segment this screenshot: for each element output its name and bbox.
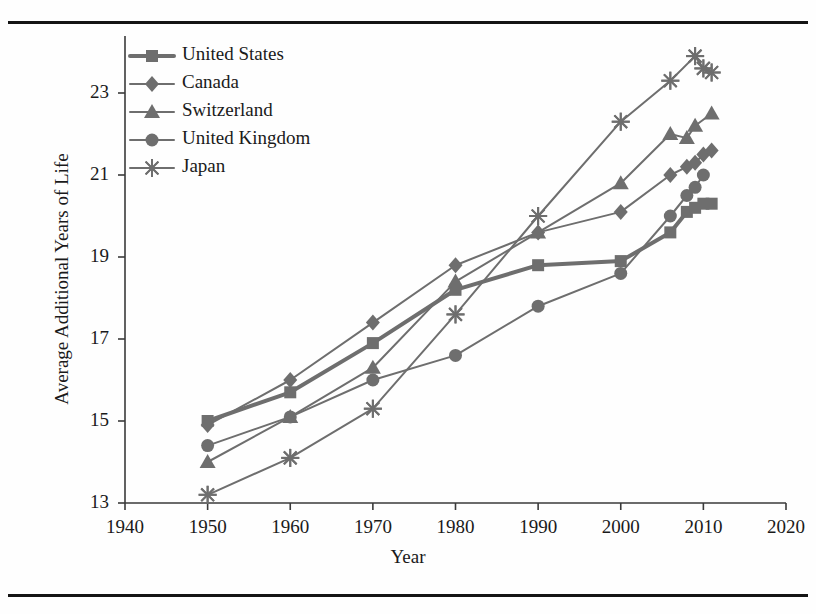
data-point-marker: [661, 72, 679, 90]
data-point-marker: [529, 207, 547, 225]
data-point-marker: [449, 349, 462, 362]
legend-label: United Kingdom: [182, 127, 310, 149]
y-tick-label: 15: [65, 409, 109, 431]
series-line: [208, 56, 712, 495]
legend-label: Japan: [182, 155, 225, 177]
x-tick-label: 2010: [663, 516, 743, 538]
data-point-marker: [449, 257, 463, 273]
x-axis-title: Year: [0, 546, 816, 568]
data-point-marker: [615, 255, 627, 267]
data-point-marker: [201, 439, 214, 452]
data-point-marker: [284, 410, 297, 423]
data-point-marker: [664, 226, 676, 238]
y-tick-label: 13: [65, 491, 109, 513]
legend-markers-group: [130, 50, 174, 177]
x-tick-label: 1990: [498, 516, 578, 538]
data-point-marker: [200, 454, 216, 468]
data-point-marker: [686, 47, 704, 65]
circle-marker-icon: [146, 134, 159, 147]
star-marker-icon: [143, 159, 161, 177]
data-point-marker: [614, 267, 627, 280]
x-tick-label: 1970: [333, 516, 413, 538]
data-point-marker: [706, 198, 718, 210]
diamond-marker-icon: [145, 76, 159, 92]
x-tick-label: 1950: [168, 516, 248, 538]
data-point-marker: [614, 204, 628, 220]
data-point-marker: [447, 305, 465, 323]
y-tick-label: 23: [65, 81, 109, 103]
data-point-marker: [664, 210, 677, 223]
data-point-marker: [532, 300, 545, 313]
legend-entry-japan[interactable]: [130, 159, 174, 177]
series-united-states: [202, 198, 718, 427]
legend-entry-united-kingdom[interactable]: [130, 134, 174, 147]
data-point-marker: [367, 337, 379, 349]
legend-entry-canada[interactable]: [130, 76, 174, 92]
y-tick-label: 17: [65, 327, 109, 349]
data-point-marker: [662, 126, 678, 140]
data-point-marker: [687, 118, 703, 132]
figure-container: Average Additional Years of Life Year 13…: [0, 0, 816, 614]
data-point-marker: [284, 386, 296, 398]
data-point-marker: [283, 372, 297, 388]
data-point-marker: [281, 449, 299, 467]
x-tick-label: 1940: [85, 516, 165, 538]
data-point-marker: [663, 167, 677, 183]
x-tick-label: 1960: [250, 516, 330, 538]
x-tick-label: 2000: [581, 516, 661, 538]
legend-entry-united-states[interactable]: [130, 50, 174, 62]
data-point-marker: [448, 274, 464, 288]
x-tick-label: 1980: [416, 516, 496, 538]
data-point-marker: [199, 486, 217, 504]
data-point-marker: [532, 259, 544, 271]
legend-label: United States: [182, 43, 284, 65]
data-point-marker: [364, 400, 382, 418]
y-tick-label: 21: [65, 163, 109, 185]
data-point-marker: [697, 169, 710, 182]
data-point-marker: [703, 64, 721, 82]
x-tick-label: 2020: [746, 516, 816, 538]
series-line: [208, 204, 712, 421]
series-japan: [199, 47, 721, 504]
data-point-marker: [612, 113, 630, 131]
data-point-marker: [704, 106, 720, 120]
series-switzerland: [200, 106, 720, 469]
data-point-marker: [689, 181, 702, 194]
legend-label: Switzerland: [182, 99, 273, 121]
data-point-marker: [366, 315, 380, 331]
legend-label: Canada: [182, 71, 239, 93]
series-group: [199, 47, 721, 504]
square-marker-icon: [146, 50, 158, 62]
legend-entry-switzerland[interactable]: [130, 104, 174, 118]
y-tick-label: 19: [65, 245, 109, 267]
data-point-marker: [366, 374, 379, 387]
